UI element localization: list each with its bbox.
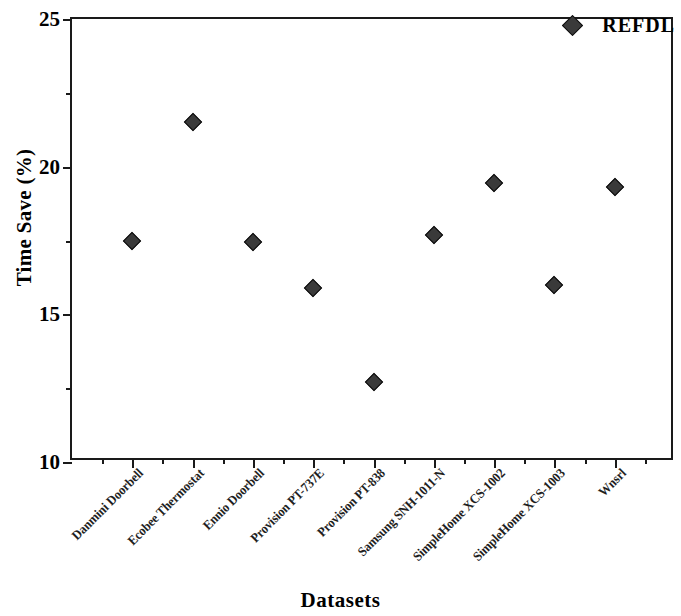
legend: REFDL [565, 14, 675, 37]
data-point-marker [545, 276, 563, 294]
x-axis-title: Datasets [0, 588, 681, 613]
data-point-marker [183, 113, 201, 131]
y-axis-tick [63, 167, 72, 169]
y-axis-tick [63, 314, 72, 316]
data-point-marker [485, 174, 503, 192]
x-axis-category-label: Wnsrl [595, 466, 629, 500]
y-axis-tick-label: 20 [39, 156, 60, 177]
y-axis-minor-tick [66, 388, 72, 390]
x-axis-tick-labels: Danmini DoorbellEcobee ThermostatEnnio D… [70, 462, 673, 572]
plot-area: 10152025 [70, 17, 673, 460]
y-axis-title: Time Save (%) [12, 108, 37, 328]
scatter-chart-figure: Time Save (%) 10152025 Danmini DoorbellE… [0, 0, 681, 616]
data-point-marker [244, 233, 262, 251]
legend-label-refdl: REFDL [602, 14, 675, 37]
y-axis-minor-tick [66, 93, 72, 95]
data-point-marker [605, 178, 623, 196]
data-point-marker [364, 373, 382, 391]
y-axis-tick [63, 19, 72, 21]
legend-diamond-icon [562, 15, 583, 36]
data-point-marker [123, 231, 141, 249]
data-point-marker [304, 279, 322, 297]
y-axis-minor-tick [66, 241, 72, 243]
data-point-marker [425, 225, 443, 243]
y-axis-tick-label: 25 [39, 9, 60, 30]
y-axis-tick-label: 10 [39, 452, 60, 473]
plot-inner: 10152025 [72, 19, 671, 458]
y-axis-tick-label: 15 [39, 304, 60, 325]
